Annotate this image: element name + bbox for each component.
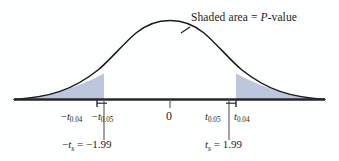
test-statistic-right-value: 1.99 (223, 138, 242, 150)
note-leader-line (181, 27, 190, 33)
axis-label-neg-t-004: −t0.04 (61, 112, 82, 123)
shaded-area-note: Shaded area = P-value (191, 12, 297, 24)
right-tail-shaded-region (236, 74, 325, 100)
test-statistic-right-subscript: s (208, 144, 211, 153)
t-distribution-figure (0, 0, 339, 161)
distribution-curve (14, 20, 325, 99)
test-statistic-left: −ts = −1.99 (62, 139, 111, 150)
test-statistic-right: ts = 1.99 (205, 139, 242, 150)
axis-label-pos-t-004: t0.04 (234, 112, 250, 123)
test-statistic-left-subscript: s (71, 144, 74, 153)
axis-label-neg-t-005: −t0.05 (92, 112, 113, 123)
shaded-area-note-suffix: -value (268, 11, 297, 23)
test-statistic-left-equals: = (74, 138, 86, 150)
test-statistic-right-equals: = (211, 138, 223, 150)
pos-t-005-subscript: 0.05 (208, 116, 221, 124)
test-statistic-left-value: −1.99 (86, 138, 111, 150)
shaded-area-note-prefix: Shaded area = (191, 11, 261, 23)
neg-t-005-subscript: 0.05 (101, 116, 114, 124)
axis-label-pos-t-005: t0.05 (205, 112, 221, 123)
axis-label-zero: 0 (166, 110, 172, 122)
shaded-area-note-symbol: P (261, 11, 268, 23)
pos-t-004-subscript: 0.04 (237, 116, 250, 124)
neg-t-004-subscript: 0.04 (70, 116, 83, 124)
left-tail-shaded-region (14, 74, 104, 100)
